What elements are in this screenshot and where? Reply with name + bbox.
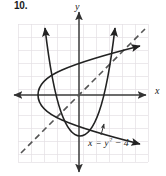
curve-sideways-parabola-upper: [38, 46, 140, 95]
graph-canvas: [0, 0, 166, 176]
identity-line-dashed: [21, 29, 145, 153]
